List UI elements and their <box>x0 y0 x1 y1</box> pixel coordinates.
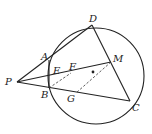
label-P: P <box>4 76 12 87</box>
dashed-MG <box>76 62 111 93</box>
center-dot <box>92 71 95 74</box>
label-G: G <box>67 93 75 104</box>
circle <box>48 28 144 124</box>
label-D: D <box>88 13 97 24</box>
label-F: F <box>68 61 77 72</box>
label-C: C <box>132 102 140 113</box>
label-B: B <box>40 89 48 100</box>
label-A: A <box>40 51 48 62</box>
geometry-diagram: P A B D C M E F G <box>0 0 152 134</box>
label-M: M <box>112 53 124 64</box>
label-E: E <box>52 65 61 76</box>
segment-PM <box>17 62 111 82</box>
segment-DC <box>92 25 130 101</box>
